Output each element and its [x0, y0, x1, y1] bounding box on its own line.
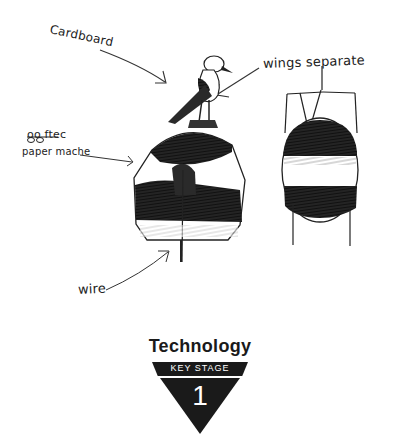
lamp-shade-right: [282, 66, 358, 246]
arrow-cardboard: [100, 50, 166, 83]
lamp-shade-left: [134, 133, 245, 262]
arrow-wire: [106, 251, 169, 290]
technology-key-stage-logo: Technology KEY STAGE 1: [140, 336, 260, 436]
logo-title: Technology: [140, 336, 260, 357]
bird-drawing: [168, 56, 233, 128]
arrow-wings: [217, 68, 259, 97]
logo-stage-number: 1: [160, 378, 240, 414]
annotation-ooftec: oo ftec: [27, 128, 66, 141]
logo-band-text: KEY STAGE: [152, 363, 248, 373]
sketch-page: Cardboard wings separate oo ftec paper m…: [0, 0, 394, 441]
annotation-wire: wire: [78, 281, 107, 297]
annotation-paper-mache: paper mache: [22, 146, 90, 157]
